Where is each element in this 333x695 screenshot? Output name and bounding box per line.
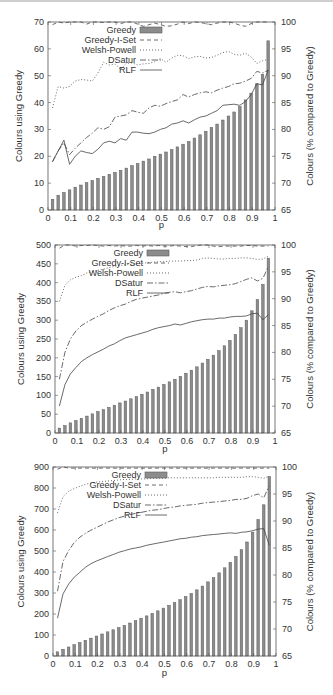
bar bbox=[212, 578, 215, 656]
bar bbox=[84, 640, 87, 656]
y2-tick-label: 100 bbox=[282, 462, 297, 472]
y2-tick-label: 75 bbox=[282, 597, 292, 607]
bar bbox=[262, 505, 265, 656]
y-tick-label: 600 bbox=[34, 525, 49, 535]
bar bbox=[235, 556, 238, 656]
bar bbox=[67, 647, 70, 656]
bar bbox=[201, 586, 204, 656]
y-axis-label: Colours using Greedy bbox=[15, 515, 26, 607]
x-tick-label: 0.9 bbox=[247, 659, 260, 669]
bar bbox=[240, 550, 243, 656]
x-tick-label: 0.3 bbox=[114, 659, 127, 669]
bar bbox=[56, 652, 59, 656]
bar bbox=[223, 568, 226, 656]
greedy-bars bbox=[56, 476, 270, 656]
legend-swatch-bar bbox=[145, 472, 167, 478]
x-tick-label: 0.1 bbox=[69, 659, 82, 669]
y-tick-label: 800 bbox=[34, 483, 49, 493]
bar bbox=[90, 638, 93, 656]
legend: GreedyGreedy-I-SetWelsh-PowellDSaturRLF bbox=[87, 470, 167, 520]
y-tick-label: 400 bbox=[34, 567, 49, 577]
bar bbox=[162, 608, 165, 656]
legend-label: RLF bbox=[124, 510, 142, 520]
bar bbox=[184, 597, 187, 656]
legend-label: Greedy bbox=[111, 470, 141, 480]
series-dsatur-line bbox=[58, 486, 270, 591]
x-tick-label: 0.6 bbox=[181, 659, 194, 669]
bar bbox=[268, 476, 271, 656]
chart-greedy-large: 00.10.20.30.40.50.60.70.80.9101002003004… bbox=[0, 0, 333, 695]
legend-label: DSatur bbox=[113, 500, 141, 510]
x-tick-label: 0.8 bbox=[225, 659, 238, 669]
bar bbox=[257, 520, 260, 657]
bar bbox=[218, 573, 221, 656]
y-tick-label: 100 bbox=[34, 630, 49, 640]
x-axis-label: p bbox=[162, 667, 167, 678]
y-tick-label: 0 bbox=[44, 651, 49, 661]
legend-label: Welsh-Powell bbox=[87, 490, 141, 500]
y-tick-label: 300 bbox=[34, 588, 49, 598]
y2-tick-label: 95 bbox=[282, 489, 292, 499]
bar bbox=[229, 562, 232, 656]
x-tick-label: 0.4 bbox=[136, 659, 149, 669]
bar bbox=[62, 649, 65, 656]
bar bbox=[246, 542, 249, 656]
bar bbox=[157, 611, 160, 656]
series-rlf-line bbox=[58, 529, 270, 619]
bar bbox=[123, 625, 126, 656]
y2-tick-label: 80 bbox=[282, 570, 292, 580]
bar bbox=[106, 632, 109, 656]
y-tick-label: 700 bbox=[34, 504, 49, 514]
bar bbox=[129, 623, 132, 656]
bar bbox=[117, 628, 120, 656]
x-tick-label: 1 bbox=[273, 659, 278, 669]
bar bbox=[78, 643, 81, 656]
bar bbox=[140, 618, 143, 656]
bar bbox=[179, 600, 182, 656]
bar bbox=[101, 634, 104, 656]
bar bbox=[151, 613, 154, 656]
bar bbox=[173, 603, 176, 656]
bar bbox=[251, 532, 254, 656]
bar bbox=[196, 590, 199, 656]
y2-tick-label: 90 bbox=[282, 516, 292, 526]
bar bbox=[168, 605, 171, 656]
y2-tick-label: 85 bbox=[282, 543, 292, 553]
x-tick-label: 0 bbox=[50, 659, 55, 669]
y2-tick-label: 70 bbox=[282, 624, 292, 634]
bar bbox=[190, 593, 193, 656]
legend-label: Greedy-I-Set bbox=[89, 480, 141, 490]
bar bbox=[207, 582, 210, 656]
x-tick-label: 0.7 bbox=[203, 659, 216, 669]
y-tick-label: 500 bbox=[34, 546, 49, 556]
y-tick-label: 900 bbox=[34, 462, 49, 472]
x-tick-label: 0.2 bbox=[91, 659, 104, 669]
y2-axis-label: Colours (% compared to Greedy) bbox=[304, 492, 315, 631]
bar bbox=[145, 616, 148, 656]
bar bbox=[112, 630, 115, 656]
y-tick-label: 200 bbox=[34, 609, 49, 619]
y2-tick-label: 65 bbox=[282, 651, 292, 661]
bar bbox=[134, 621, 137, 656]
